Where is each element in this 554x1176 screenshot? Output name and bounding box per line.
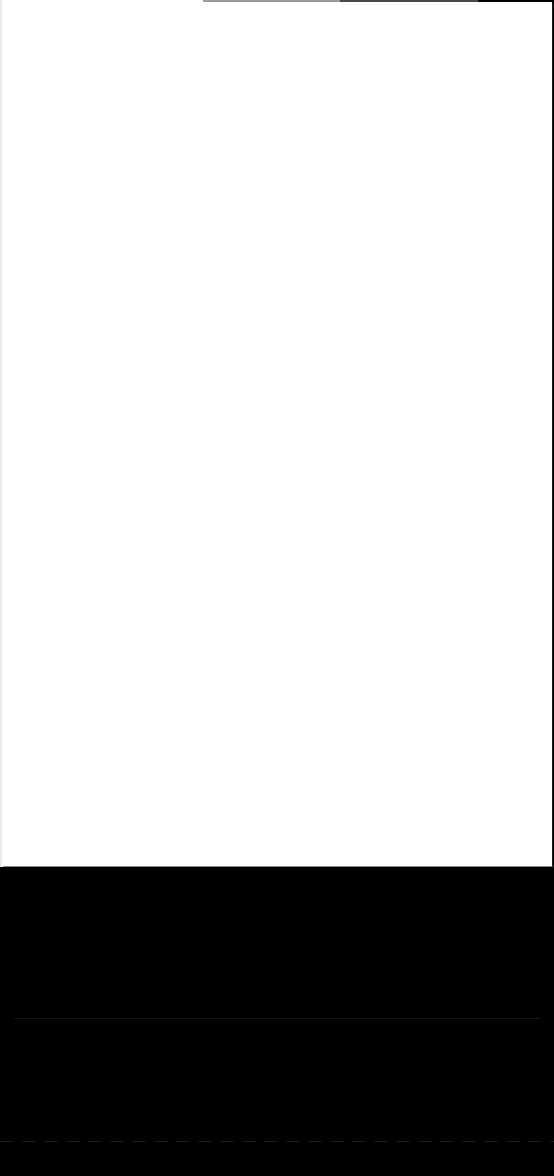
progress-segment-3 xyxy=(478,0,554,2)
left-edge-shadow xyxy=(0,0,3,867)
loading-progress-bar xyxy=(0,0,554,2)
progress-segment-1 xyxy=(203,0,340,2)
dashed-divider xyxy=(0,1141,554,1142)
page-content-area xyxy=(0,0,553,867)
progress-segment-2 xyxy=(340,0,478,2)
bottom-dark-panel xyxy=(0,867,554,1176)
panel-divider xyxy=(14,1018,540,1019)
